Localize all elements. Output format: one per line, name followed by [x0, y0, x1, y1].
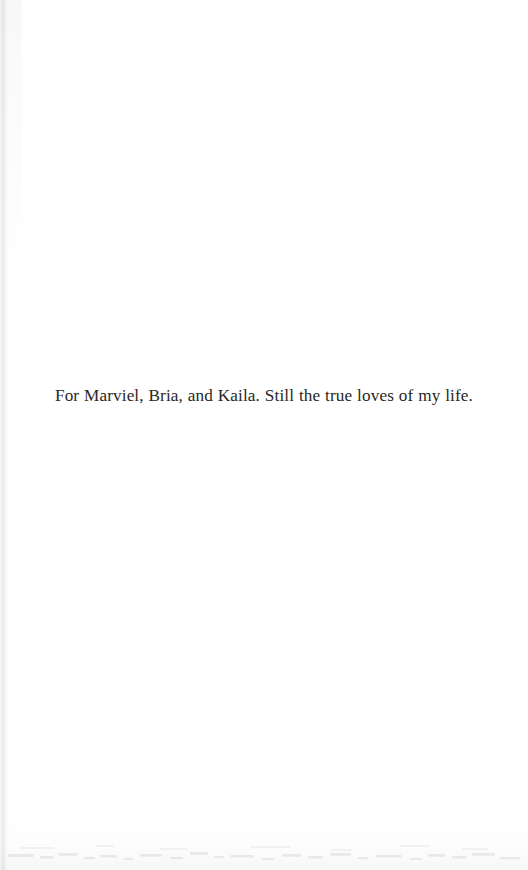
page-bottom-noise-texture	[0, 836, 528, 870]
page-gutter-top-fade	[0, 0, 22, 300]
dedication-text: For Marviel, Bria, and Kaila. Still the …	[55, 386, 473, 406]
dedication-block: For Marviel, Bria, and Kaila. Still the …	[0, 386, 528, 406]
book-page: For Marviel, Bria, and Kaila. Still the …	[0, 0, 528, 870]
page-gutter-shadow	[0, 0, 9, 870]
page-bottom-scan-noise	[0, 810, 528, 870]
